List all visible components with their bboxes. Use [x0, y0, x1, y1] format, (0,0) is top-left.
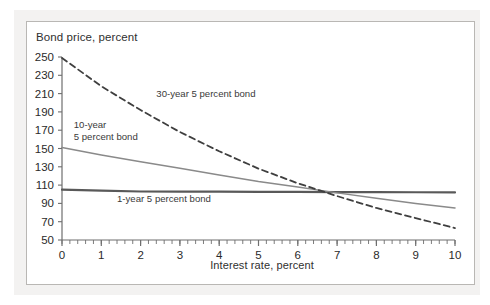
y-tick-label: 50: [41, 234, 54, 246]
chart-screenshot: Bond price, percent 50709011013015017019…: [0, 0, 490, 305]
y-tick-label: 90: [41, 197, 54, 209]
y-tick-label: 110: [36, 179, 54, 191]
y-tick-label: 170: [35, 124, 54, 136]
y-tick-label: 230: [35, 69, 54, 81]
y-tick-label: 210: [35, 88, 54, 100]
y-tick-label: 70: [41, 216, 54, 228]
series-annotation-1: 10-year: [74, 119, 107, 130]
y-tick-label: 250: [35, 51, 54, 63]
series-annotation-2: 5 percent bond: [74, 131, 138, 142]
series-annotation-0: 30-year 5 percent bond: [156, 88, 255, 99]
series-annotation-3: 1-year 5 percent bond: [117, 193, 211, 204]
y-tick-label: 150: [35, 143, 54, 155]
xaxis-title: Interest rate, percent: [210, 259, 314, 271]
xaxis-title-wrapper: Interest rate, percent: [0, 259, 490, 271]
y-tick-label: 190: [35, 106, 54, 118]
y-tick-label: 130: [35, 161, 54, 173]
